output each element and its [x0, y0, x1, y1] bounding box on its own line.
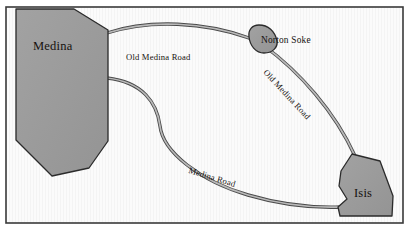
road-label-old-medina-road-west: Old Medina Road — [126, 53, 191, 62]
region-label-norton-soke: Norton Soke — [261, 36, 311, 45]
region-label-isis: Isis — [354, 187, 372, 200]
region-label-medina: Medina — [33, 40, 72, 53]
map-canvas — [0, 0, 411, 233]
road-map-figure: Medina Isis Norton Soke Old Medina Road … — [0, 0, 411, 233]
region-medina-shape[interactable] — [16, 9, 108, 176]
